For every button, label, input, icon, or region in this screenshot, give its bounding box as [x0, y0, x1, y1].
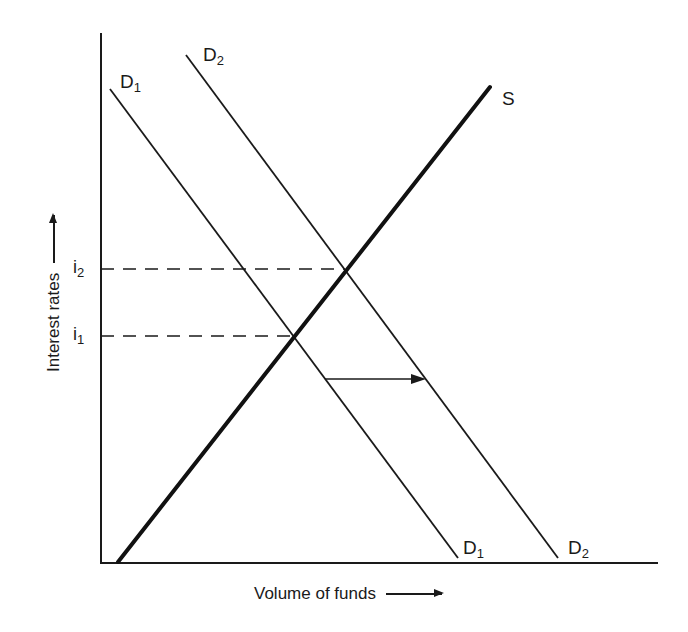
x-axis-label: Volume of funds	[254, 584, 376, 604]
label-d1-bottom: D1	[463, 538, 484, 557]
demand-curve-d2	[186, 55, 558, 558]
label-s: S	[502, 89, 515, 108]
label-d2-bottom: D2	[568, 538, 589, 557]
label-d1-top: D1	[120, 72, 141, 91]
supply-curve-s	[118, 87, 490, 562]
label-d2-top: D2	[203, 45, 224, 64]
y-axis-arrow-icon	[53, 215, 55, 263]
x-axis-title: Volume of funds	[254, 584, 442, 604]
x-axis-arrow-icon	[386, 593, 442, 595]
y-axis-title: Interest rates	[44, 215, 64, 372]
demand-curve-d1	[110, 89, 458, 558]
y-axis-label: Interest rates	[44, 273, 64, 372]
label-i2: i2	[73, 258, 84, 276]
label-i1: i1	[73, 325, 84, 343]
